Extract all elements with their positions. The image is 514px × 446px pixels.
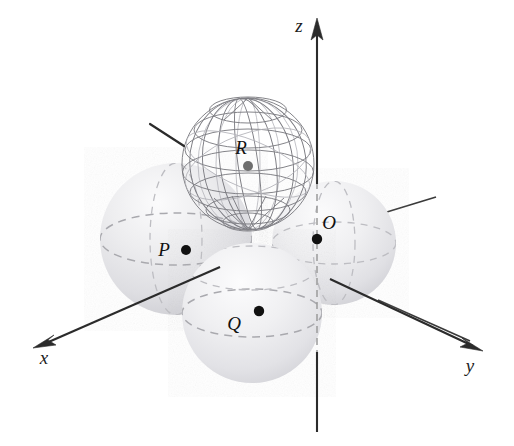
y-axis-arrowhead <box>460 338 483 351</box>
label-O: O <box>322 212 336 233</box>
label-P: P <box>157 239 170 260</box>
label-y-axis: y <box>464 355 475 376</box>
point-dot-R <box>243 161 253 171</box>
sphere-Q <box>182 243 322 383</box>
label-Q: Q <box>227 313 241 334</box>
x-axis-far-segment <box>378 300 470 341</box>
point-dot-O <box>312 234 322 244</box>
sphere-Q-body <box>182 243 322 383</box>
label-z-axis: z <box>294 15 303 36</box>
point-dot-P <box>181 245 191 255</box>
diagram-canvas: P Q R O x y z <box>0 0 514 446</box>
pointer-line-to-sphere-R <box>150 124 184 146</box>
y-axis-near <box>330 279 473 346</box>
point-dot-Q <box>254 306 264 316</box>
label-R: R <box>234 137 247 158</box>
figure-container: P Q R O x y z <box>0 0 514 446</box>
label-x-axis: x <box>39 347 49 368</box>
